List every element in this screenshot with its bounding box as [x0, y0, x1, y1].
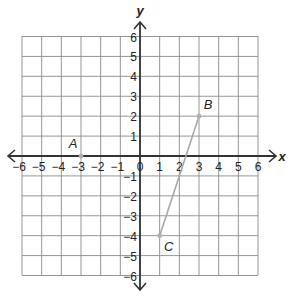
- x-tick-label: 4: [215, 160, 222, 174]
- coordinate-grid: xy −6−5−4−3−2−10123456654321−1−2−3−4−5−6…: [0, 0, 288, 296]
- x-tick-label: −4: [51, 160, 65, 174]
- x-tick-label: −2: [91, 160, 105, 174]
- x-tick-label: −5: [32, 160, 46, 174]
- y-tick-label: −4: [123, 230, 137, 244]
- y-tick-label: 1: [130, 130, 137, 144]
- point-label-B: B: [204, 97, 213, 112]
- y-tick-label: 2: [130, 110, 137, 124]
- point-B: [197, 114, 202, 119]
- x-tick-label: 3: [196, 160, 203, 174]
- y-tick-label: −3: [123, 210, 137, 224]
- x-tick-label: 6: [255, 160, 262, 174]
- x-tick-label: 0: [137, 160, 144, 174]
- x-axis-label: x: [277, 149, 286, 164]
- point-A: [79, 154, 84, 159]
- y-tick-label: −1: [123, 170, 137, 184]
- point-label-A: A: [68, 136, 78, 151]
- y-tick-label: 5: [130, 50, 137, 64]
- y-tick-label: 6: [130, 31, 137, 45]
- y-tick-label: 3: [130, 90, 137, 104]
- y-tick-label: −6: [123, 270, 137, 284]
- point-C: [157, 233, 162, 238]
- x-tick-label: −6: [12, 160, 26, 174]
- y-tick-label: −2: [123, 190, 137, 204]
- y-axis-label: y: [135, 3, 144, 18]
- x-tick-label: 5: [235, 160, 242, 174]
- y-tick-label: 4: [130, 70, 137, 84]
- x-tick-label: 1: [156, 160, 163, 174]
- axes: xy: [8, 3, 286, 290]
- y-tick-label: −5: [123, 250, 137, 264]
- x-tick-label: −3: [71, 160, 85, 174]
- point-label-C: C: [164, 239, 174, 254]
- tick-labels: −6−5−4−3−2−10123456654321−1−2−3−4−5−6: [12, 31, 262, 284]
